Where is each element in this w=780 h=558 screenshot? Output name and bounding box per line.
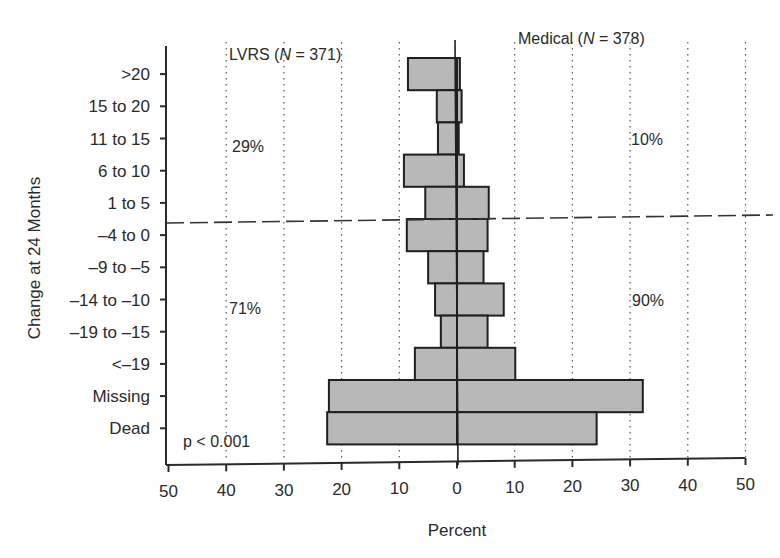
y-axis-title: Change at 24 Months <box>25 177 44 340</box>
x-tick-label: 20 <box>563 477 582 496</box>
y-tick-label: –14 to –10 <box>70 291 150 310</box>
x-axis-line <box>166 458 745 465</box>
bar-lvrs <box>408 58 457 90</box>
x-tick-label: 10 <box>505 478 524 497</box>
bar-medical <box>457 316 488 348</box>
bar-medical <box>457 155 464 187</box>
x-tick-label: 10 <box>390 479 409 498</box>
bars <box>327 58 643 444</box>
medical-header: Medical (N = 378) <box>518 30 645 47</box>
x-tick-label: 30 <box>621 476 640 495</box>
y-tick-labels: >2015 to 2011 to 156 to 101 to 5–4 to 0–… <box>70 65 166 438</box>
p-value: p < 0.001 <box>183 433 250 450</box>
x-tick-label: 40 <box>678 476 697 495</box>
y-tick-label: 15 to 20 <box>89 97 150 116</box>
x-tick-label: 20 <box>332 480 351 499</box>
y-tick-label: <–19 <box>112 355 150 374</box>
x-axis-title: Percent <box>428 521 487 540</box>
bar-lvrs <box>435 283 457 315</box>
bar-medical <box>457 283 504 315</box>
bar-lvrs <box>415 348 457 380</box>
y-tick-label: 11 to 15 <box>90 130 150 149</box>
lvrs-above-percent: 29% <box>232 138 264 155</box>
x-tick-label: 0 <box>452 479 461 498</box>
bar-medical <box>457 187 489 219</box>
bar-lvrs <box>438 122 457 154</box>
y-tick-label: –4 to 0 <box>98 226 150 245</box>
y-tick-label: –19 to –15 <box>70 323 150 342</box>
y-tick-label: Missing <box>92 387 150 406</box>
x-tick-label: 50 <box>736 475 755 494</box>
bar-medical <box>457 251 484 283</box>
bar-lvrs <box>441 316 457 348</box>
bar-lvrs <box>437 90 457 122</box>
lvrs-header: LVRS (N = 371) <box>229 46 341 63</box>
bar-medical <box>457 90 462 122</box>
bar-medical <box>457 348 515 380</box>
bar-lvrs <box>329 380 457 412</box>
x-tick-label: 50 <box>159 482 178 501</box>
bar-medical <box>457 380 643 412</box>
bar-medical <box>457 412 597 444</box>
y-tick-label: 6 to 10 <box>98 162 150 181</box>
y-tick-label: –9 to –5 <box>89 258 150 277</box>
y-tick-label: >20 <box>121 65 150 84</box>
bar-medical <box>457 58 460 90</box>
bar-lvrs <box>428 251 457 283</box>
bar-lvrs <box>327 412 457 444</box>
x-tick-label: 40 <box>217 481 236 500</box>
bar-lvrs <box>407 219 457 251</box>
medical-above-percent: 10% <box>631 131 663 148</box>
bar-lvrs <box>404 155 457 187</box>
bar-lvrs <box>425 187 457 219</box>
bar-medical <box>457 219 488 251</box>
back-to-back-bar-chart: >2015 to 2011 to 156 to 101 to 5–4 to 0–… <box>0 0 780 558</box>
x-tick-label: 30 <box>274 481 293 500</box>
y-tick-label: 1 to 5 <box>107 194 150 213</box>
y-tick-label: Dead <box>109 419 150 438</box>
lvrs-below-percent: 71% <box>229 300 261 317</box>
medical-below-percent: 90% <box>632 292 664 309</box>
bar-medical <box>457 122 459 154</box>
